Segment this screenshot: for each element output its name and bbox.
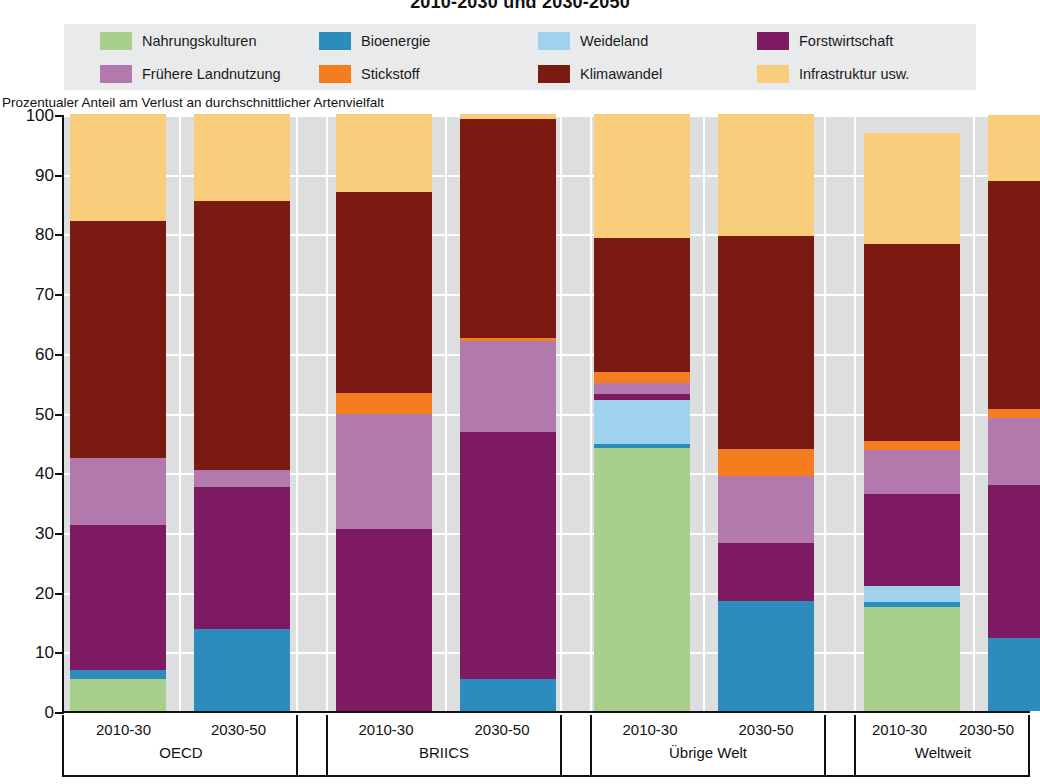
y-axis-label: 30 — [2, 524, 54, 544]
bar-segment — [864, 441, 960, 451]
bar-segment — [460, 432, 556, 680]
bar-segment — [864, 244, 960, 440]
vertical-gridline — [326, 116, 328, 711]
x-axis-region-label: Übrige Welt — [669, 744, 747, 761]
y-axis-label: 90 — [2, 166, 54, 186]
bar-segment — [864, 133, 960, 244]
x-axis-periods: 2010-302030-50 — [66, 721, 296, 738]
bar-segment — [718, 114, 814, 236]
y-axis-label: 0 — [2, 703, 54, 723]
stacked-bar[interactable] — [864, 114, 960, 711]
stacked-bar[interactable] — [70, 114, 166, 711]
legend-label: Infrastruktur usw. — [799, 66, 909, 82]
x-axis-period-label: 2010-30 — [96, 721, 151, 738]
bar-segment — [864, 494, 960, 585]
bar-segment — [70, 525, 166, 671]
stacked-bar[interactable] — [718, 114, 814, 711]
bar-segment — [988, 638, 1040, 711]
x-axis-period-label: 2030-50 — [474, 721, 529, 738]
bar-segment — [194, 629, 290, 711]
legend-item[interactable]: Infrastruktur usw. — [757, 65, 976, 83]
bar-segment — [594, 372, 690, 383]
vertical-gridline — [296, 116, 298, 711]
legend-item[interactable]: Klimawandel — [538, 65, 757, 83]
bar-segment — [718, 236, 814, 449]
x-axis-period-label: 2030-50 — [959, 721, 1014, 738]
x-axis-band: 2010-302030-50OECD2010-302030-50BRIICS20… — [62, 715, 1030, 777]
legend-swatch-icon — [319, 65, 351, 83]
y-axis-tick — [55, 175, 64, 177]
legend-label: Stickstoff — [361, 66, 420, 82]
bar-segment — [594, 114, 690, 238]
legend-item[interactable]: Frühere Landnutzung — [100, 65, 319, 83]
chart-title: 2010-2030 und 2030-2050 — [0, 0, 1040, 13]
bar-segment — [718, 601, 814, 711]
legend-item[interactable]: Stickstoff — [319, 65, 538, 83]
legend-label: Frühere Landnutzung — [142, 66, 281, 82]
y-axis-label: 70 — [2, 285, 54, 305]
legend-item[interactable]: Nahrungskulturen — [100, 32, 319, 50]
vertical-gridline — [824, 116, 826, 711]
bar-segment — [336, 414, 432, 529]
bar-segment — [70, 670, 166, 679]
x-axis-separator — [296, 715, 298, 775]
bar-segment — [988, 409, 1040, 418]
x-axis-region-label: BRIICS — [419, 744, 469, 761]
legend-swatch-icon — [757, 65, 789, 83]
bar-segment — [988, 181, 1040, 409]
x-axis-group: 2010-302030-50BRIICS — [328, 715, 560, 775]
bar-segment — [864, 586, 960, 602]
x-axis-separator — [560, 715, 562, 775]
bar-segment — [70, 679, 166, 711]
y-axis-tick — [55, 593, 64, 595]
stacked-bar[interactable] — [194, 114, 290, 711]
y-axis-label: 40 — [2, 464, 54, 484]
bar-segment — [594, 383, 690, 394]
y-axis-label: 20 — [2, 584, 54, 604]
bar-segment — [988, 115, 1040, 181]
x-axis-group: 2010-302030-50OECD — [66, 715, 296, 775]
bar-segment — [718, 543, 814, 600]
y-axis-label: 50 — [2, 405, 54, 425]
vertical-gridline — [445, 116, 447, 711]
y-axis-tick — [55, 414, 64, 416]
bar-segment — [336, 393, 432, 414]
x-axis-group: 2010-302030-50Übrige Welt — [592, 715, 824, 775]
vertical-gridline — [854, 116, 856, 711]
stacked-bar[interactable] — [594, 114, 690, 711]
y-axis-tick — [55, 115, 64, 117]
chart-legend: NahrungskulturenBioenergieWeidelandForst… — [64, 24, 976, 90]
y-axis-label: 10 — [2, 643, 54, 663]
plot-area: 0102030405060708090100 — [62, 116, 1030, 713]
bar-segment — [336, 114, 432, 192]
y-axis-tick — [55, 294, 64, 296]
vertical-gridline — [179, 116, 181, 711]
y-axis-label: 100 — [2, 106, 54, 126]
x-axis-periods: 2010-302030-50 — [328, 721, 560, 738]
x-axis-group: 2010-302030-50Weltweit — [856, 715, 1030, 775]
legend-label: Weideland — [580, 33, 648, 49]
bar-segment — [718, 449, 814, 476]
legend-item[interactable]: Forstwirtschaft — [757, 32, 976, 50]
x-axis-period-label: 2030-50 — [738, 721, 793, 738]
bar-segment — [988, 418, 1040, 485]
bar-segment — [460, 119, 556, 339]
legend-label: Klimawandel — [580, 66, 662, 82]
y-axis-label: 80 — [2, 225, 54, 245]
bar-segment — [336, 192, 432, 394]
stacked-bar[interactable] — [336, 114, 432, 711]
x-axis-region-label: Weltweit — [915, 744, 971, 761]
legend-swatch-icon — [319, 32, 351, 50]
stacked-bar[interactable] — [460, 114, 556, 711]
legend-item[interactable]: Bioenergie — [319, 32, 538, 50]
x-axis-separator — [824, 715, 826, 775]
bar-segment — [70, 114, 166, 221]
legend-item[interactable]: Weideland — [538, 32, 757, 50]
stacked-bar[interactable] — [988, 114, 1040, 711]
legend-swatch-icon — [538, 32, 570, 50]
x-axis-period-label: 2010-30 — [872, 721, 927, 738]
legend-label: Bioenergie — [361, 33, 430, 49]
y-axis-tick — [55, 712, 64, 714]
bar-segment — [70, 458, 166, 524]
bar-segment — [70, 221, 166, 458]
